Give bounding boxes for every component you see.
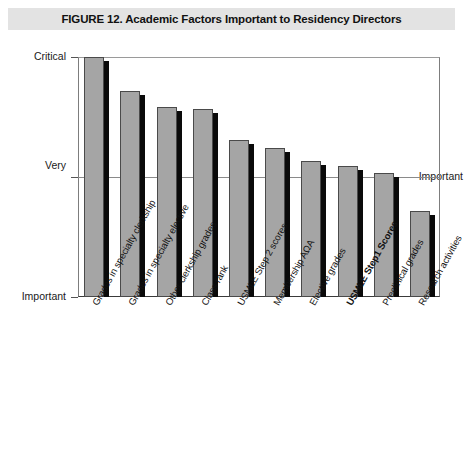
x-axis-labels-container: Grades in specialty clerkshipGrades in s… xyxy=(0,298,463,454)
y-axis-tick-critical xyxy=(71,57,78,58)
y-axis-label-critical: Critical xyxy=(0,51,66,63)
y-axis-label-very: Very xyxy=(0,160,66,172)
bar xyxy=(193,109,218,297)
bar-chart: Critical Very Important Important Grades… xyxy=(0,32,463,454)
bar-body xyxy=(157,107,177,297)
bar-body xyxy=(229,140,249,297)
bar-body xyxy=(301,161,321,297)
figure-title-banner: FIGURE 12. Academic Factors Important to… xyxy=(8,8,455,30)
bar-body xyxy=(84,57,104,297)
bar xyxy=(157,107,182,297)
bar xyxy=(120,91,145,297)
page-title: FIGURE 12. Academic Factors Important to… xyxy=(61,13,401,25)
bar-shadow xyxy=(104,61,109,297)
bar-body xyxy=(193,109,213,297)
bar-body xyxy=(120,91,140,297)
y-axis-tick-very-important xyxy=(71,177,78,178)
bar xyxy=(84,57,109,297)
bar-body xyxy=(338,166,358,297)
